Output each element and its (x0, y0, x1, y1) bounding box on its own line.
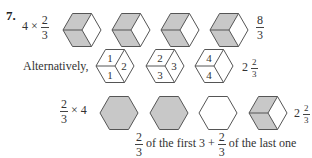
caption-fraction-2: 2 3 (218, 131, 226, 158)
row3-hexagon-1 (100, 97, 138, 130)
numerator: 2 (303, 104, 310, 115)
row1-hexagon-1 (63, 14, 101, 47)
caption: 2 3 of the first 3 + 2 3 of the last one (135, 131, 296, 158)
svg-text:4: 4 (206, 69, 212, 81)
denominator: 3 (136, 145, 142, 158)
denominator: 3 (61, 112, 67, 125)
whole: 2 (294, 106, 300, 120)
caption-middle: of the first 3 + (146, 136, 215, 150)
numerator: 2 (60, 98, 68, 112)
svg-text:3: 3 (171, 60, 177, 72)
result-fraction: 2 3 (303, 104, 310, 125)
row1-hexagon-4 (210, 14, 248, 47)
row3-fraction: 2 3 (60, 98, 68, 125)
numerator: 2 (135, 131, 143, 145)
alternatively-label: Alternatively, (23, 59, 89, 74)
denominator: 3 (304, 115, 309, 125)
row3-hexagon-3 (199, 97, 237, 130)
denominator: 3 (252, 69, 257, 79)
row3-hexagon-4 (249, 97, 287, 130)
row3-op: × 4 (71, 103, 87, 117)
row3-expression: 2 3 × 4 (60, 98, 87, 125)
svg-text:2: 2 (121, 60, 127, 72)
result-fraction: 2 3 (251, 58, 258, 79)
svg-text:4: 4 (206, 52, 212, 64)
row2-hexagon-3: 4 4 (195, 50, 233, 83)
caption-end: of the last one (229, 136, 297, 150)
whole: 2 (242, 60, 248, 74)
row2-hexagon-1: 1 1 2 (96, 50, 134, 83)
row3-result: 2 2 3 (294, 104, 310, 125)
svg-text:1: 1 (107, 69, 113, 81)
numerator: 2 (218, 131, 226, 145)
numerator: 2 (251, 58, 258, 69)
row1-hexagon-3 (161, 14, 199, 47)
svg-text:2: 2 (157, 52, 163, 64)
caption-fraction-1: 2 3 (135, 131, 143, 158)
row2-hexagon-2: 2 3 3 (146, 50, 184, 83)
row1-result: 8 3 (256, 14, 264, 41)
svg-text:1: 1 (107, 52, 113, 64)
row2-result: 2 2 3 (242, 58, 258, 79)
numerator: 8 (256, 14, 264, 28)
svg-text:3: 3 (157, 69, 163, 81)
denominator: 3 (219, 145, 225, 158)
row1-hexagon-2 (112, 14, 150, 47)
denominator: 3 (257, 28, 263, 41)
row3-hexagon-2 (150, 97, 188, 130)
result-fraction: 8 3 (256, 14, 264, 41)
